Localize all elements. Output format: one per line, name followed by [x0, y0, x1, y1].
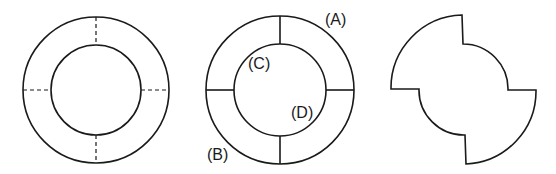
label-d: (D): [291, 104, 313, 121]
figure-labeled-ring: [206, 16, 354, 164]
label-a: (A): [325, 11, 346, 28]
label-c: (C): [248, 55, 270, 72]
figure-dashed-ring: [23, 17, 169, 163]
label-b: (B): [207, 146, 228, 163]
pinwheel-outline: [391, 15, 536, 164]
diagram-canvas: (A) (B) (C) (D): [0, 0, 556, 174]
figure-pinwheel: [391, 15, 536, 164]
inner-circle: [51, 45, 141, 135]
